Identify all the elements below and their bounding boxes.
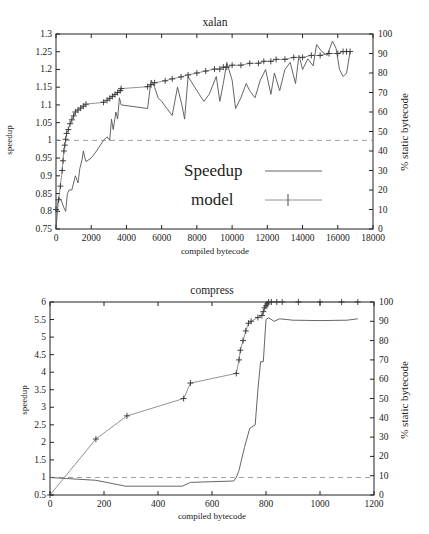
x-tick-label: 18000	[361, 233, 385, 243]
y2-tick-label: 20	[379, 451, 389, 461]
y-tick-label: 1	[47, 135, 52, 145]
y-tick-label: 2.5	[34, 420, 46, 430]
y2-tick-label: 10	[378, 205, 388, 215]
x-tick-label: 1200	[365, 499, 384, 509]
speedup-line	[50, 318, 358, 486]
compress-plot-frame	[50, 302, 374, 495]
x-tick-label: 0	[48, 499, 53, 509]
compress-chart: compress 0200400600800100012000.511.522.…	[19, 284, 410, 521]
y2-tick-label: 10	[379, 471, 389, 481]
y2-tick-label: 100	[378, 29, 393, 39]
y-tick-label: 0.9	[40, 171, 52, 181]
x-tick-label: 10000	[220, 233, 244, 243]
y2-tick-label: 100	[379, 297, 394, 307]
y2-tick-label: 60	[378, 107, 388, 117]
y2-tick-label: 40	[379, 413, 389, 423]
y-tick-label: 2	[41, 437, 46, 447]
y-tick-label: 0.75	[35, 224, 52, 234]
xalan-chart: xalan 0200040006000800010000120001400016…	[4, 16, 410, 256]
x-tick-label: 1000	[311, 499, 330, 509]
y-tick-label: 5.5	[34, 315, 46, 325]
y-tick-label: 1.05	[35, 118, 52, 128]
compress-y2-axis-label: % static bytecode	[398, 361, 410, 439]
y2-tick-label: 90	[378, 49, 388, 59]
y-tick-label: 1	[41, 472, 46, 482]
y-tick-label: 0.8	[40, 206, 52, 216]
y2-tick-label: 20	[378, 185, 388, 195]
compress-x-axis-label: compiled bytecode	[178, 511, 246, 521]
y-tick-label: 0.5	[34, 490, 46, 500]
x-tick-label: 6000	[152, 233, 171, 243]
y-tick-label: 5	[41, 332, 46, 342]
xalan-y2-axis-label: % static bytecode	[398, 93, 410, 171]
xalan-y-axis-label: speedup	[4, 125, 14, 155]
y-tick-label: 1.5	[34, 455, 46, 465]
legend-speedup-label: Speedup	[184, 161, 243, 180]
y-tick-label: 3	[41, 402, 46, 412]
y-tick-label: 1.1	[40, 100, 52, 110]
x-tick-label: 16000	[326, 233, 350, 243]
y2-tick-label: 60	[379, 374, 389, 384]
compress-series	[47, 299, 374, 498]
y-tick-label: 0.95	[35, 153, 52, 163]
y-tick-label: 1.3	[40, 29, 52, 39]
x-tick-label: 0	[54, 233, 59, 243]
xalan-title: xalan	[203, 16, 228, 28]
y2-tick-label: 50	[378, 127, 388, 137]
y2-tick-label: 40	[378, 146, 388, 156]
y-tick-label: 1.15	[35, 82, 52, 92]
y-tick-label: 3.5	[34, 385, 46, 395]
xalan-axis-ticks: 0200040006000800010000120001400016000180…	[35, 29, 392, 243]
xalan-x-axis-label: compiled bytecode	[181, 246, 249, 256]
x-tick-label: 200	[97, 499, 112, 509]
chart-figure: xalan 0200040006000800010000120001400016…	[0, 0, 429, 534]
y2-tick-label: 70	[378, 88, 388, 98]
y2-tick-label: 0	[379, 490, 384, 500]
y2-tick-label: 30	[379, 432, 389, 442]
compress-title: compress	[190, 284, 234, 297]
legend-model-label: model	[191, 190, 234, 209]
y2-tick-label: 70	[379, 355, 389, 365]
y2-tick-label: 50	[379, 394, 389, 404]
compress-y-axis-label: speedup	[19, 385, 29, 415]
y-tick-label: 4	[41, 367, 46, 377]
x-tick-label: 8000	[187, 233, 206, 243]
y-tick-label: 4.5	[34, 350, 46, 360]
xalan-legend: Speedup model	[184, 161, 322, 209]
y-tick-label: 0.85	[35, 189, 52, 199]
x-tick-label: 600	[205, 499, 220, 509]
model-line	[50, 302, 358, 495]
y2-tick-label: 80	[378, 68, 388, 78]
y2-tick-label: 90	[379, 316, 389, 326]
x-tick-label: 2000	[82, 233, 101, 243]
y-tick-label: 1.25	[35, 47, 52, 57]
x-tick-label: 12000	[255, 233, 279, 243]
y2-tick-label: 30	[378, 166, 388, 176]
y-tick-label: 6	[41, 297, 46, 307]
model-line	[56, 52, 350, 210]
y2-tick-label: 80	[379, 336, 389, 346]
x-tick-label: 400	[151, 499, 166, 509]
x-tick-label: 4000	[117, 233, 136, 243]
x-tick-label: 800	[259, 499, 274, 509]
x-tick-label: 14000	[291, 233, 315, 243]
y-tick-label: 1.2	[40, 64, 52, 74]
y2-tick-label: 0	[378, 224, 383, 234]
